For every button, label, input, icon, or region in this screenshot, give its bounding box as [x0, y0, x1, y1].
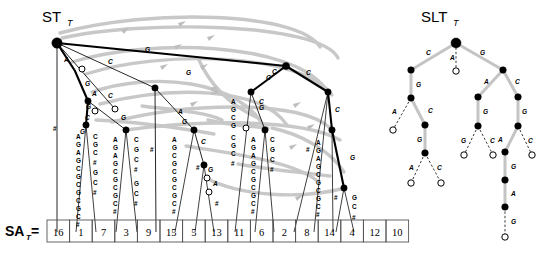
sa-cell-value: 11 — [234, 227, 244, 238]
slt-internal-node[interactable] — [515, 123, 522, 130]
tree-internal-node[interactable] — [201, 162, 207, 168]
tree-internal-node[interactable] — [191, 127, 197, 133]
svg-text:G: G — [93, 169, 98, 176]
sa-cell-value: 6 — [259, 227, 264, 238]
tree-internal-node[interactable] — [341, 185, 347, 191]
svg-text:G: G — [113, 192, 118, 199]
slt-edge-label: A — [391, 108, 397, 115]
tree-internal-node[interactable] — [282, 62, 289, 69]
sa-cell-value: 2 — [282, 227, 287, 238]
svg-text:G: G — [352, 194, 357, 201]
slt-internal-node[interactable] — [475, 94, 482, 101]
sa-equals: = — [31, 223, 39, 239]
svg-text:#: # — [251, 208, 255, 215]
slt-internal-node[interactable] — [500, 67, 507, 74]
svg-text:G: G — [231, 106, 236, 113]
svg-text:C: C — [134, 190, 139, 197]
slt-leaf-node[interactable] — [529, 152, 535, 158]
edge-label: G — [121, 114, 126, 121]
svg-text:C: C — [251, 184, 256, 191]
sa-cell-value: 15 — [166, 227, 177, 238]
suffix-tree-title: ST — [42, 8, 61, 25]
svg-text:G: G — [113, 144, 118, 151]
tree-leaf-node[interactable] — [206, 189, 212, 195]
slt-internal-node[interactable] — [502, 204, 509, 211]
svg-text:G: G — [231, 142, 236, 149]
tree-leaf-node[interactable] — [243, 125, 249, 131]
slt-edge-solid — [411, 98, 425, 125]
slt-internal-node[interactable] — [408, 95, 415, 102]
svg-text:G: G — [316, 179, 321, 186]
leaf-string-col: AG CG CG CG C# — [172, 136, 177, 215]
slt-edge-dashed — [465, 126, 478, 153]
slt-leaf-node[interactable] — [502, 234, 508, 240]
leaf-string: # — [53, 125, 57, 132]
slt-leaf-node[interactable] — [390, 127, 396, 133]
slt-internal-node[interactable] — [475, 123, 482, 130]
edge-label: G — [350, 154, 355, 161]
edge-label: C — [306, 69, 311, 76]
tree-edge-thick — [328, 92, 332, 130]
leaf-string: # — [150, 146, 154, 153]
suffix-tree-figure: A C G G A G C G C G A G C G A C C C G G … — [0, 0, 539, 254]
svg-text:#: # — [172, 208, 176, 215]
svg-text:G: G — [172, 144, 177, 151]
slt-internal-node[interactable] — [422, 150, 429, 157]
slt-internal-node[interactable] — [422, 122, 429, 129]
sa-cell-value: 9 — [146, 227, 151, 238]
slt-internal-node[interactable] — [502, 149, 509, 156]
slt-internal-node[interactable] — [515, 94, 522, 101]
svg-text:G: G — [316, 195, 321, 202]
tree-internal-node[interactable] — [152, 85, 158, 91]
tree-leaf-node[interactable] — [112, 106, 118, 112]
slt-leaf-node[interactable] — [438, 180, 444, 186]
svg-text:A: A — [113, 136, 118, 143]
tree-leaf-node[interactable] — [204, 175, 210, 181]
tree-leaf-edge — [255, 130, 265, 232]
tree-internal-node[interactable] — [262, 127, 268, 133]
slt-edge-label: G — [522, 108, 527, 115]
tree-internal-node[interactable] — [329, 127, 335, 133]
svg-text:G: G — [113, 176, 118, 183]
svg-text:A: A — [316, 139, 321, 146]
leaf-string-col: AG CG CG C# — [231, 98, 236, 167]
svg-text:#: # — [93, 189, 97, 196]
svg-text:#: # — [270, 166, 274, 173]
svg-text:G: G — [76, 173, 81, 180]
svg-text:C: C — [172, 184, 177, 191]
slt-edge-label: G — [461, 137, 466, 144]
edge-label: A — [63, 56, 69, 63]
slt-internal-node[interactable] — [502, 177, 509, 184]
slt-internal-node[interactable] — [408, 67, 415, 74]
slt-edge-solid — [456, 43, 503, 70]
slt-leaf-node[interactable] — [453, 68, 459, 74]
tree-leaf-edge — [235, 92, 251, 232]
slt-edge-label: C — [426, 49, 431, 56]
tree-leaf-node[interactable] — [92, 108, 98, 114]
slt-edge-solid — [478, 70, 503, 97]
svg-text:C: C — [76, 165, 81, 172]
slt-title-sub: T — [453, 18, 460, 28]
slt-leaf-node[interactable] — [461, 152, 467, 158]
svg-text:C: C — [93, 179, 98, 186]
leaf-string: # — [215, 200, 219, 207]
edge-label: C — [335, 106, 340, 113]
svg-text:#: # — [93, 159, 97, 166]
leaf-string-col: GC # — [93, 169, 98, 196]
tree-root-node[interactable] — [52, 38, 62, 48]
leaf-string-col: AG AG CG CG CG C# — [76, 133, 81, 228]
edge-label: G — [85, 80, 90, 87]
leaf-string-col: AG AG CG CG C# — [251, 136, 256, 215]
tree-internal-node[interactable] — [123, 127, 129, 133]
slt-root-node[interactable] — [451, 38, 461, 48]
slt-leaf-node[interactable] — [408, 180, 414, 186]
tree-internal-node[interactable] — [325, 89, 331, 95]
tree-leaf-node[interactable] — [79, 66, 85, 72]
tree-internal-node[interactable] — [248, 89, 254, 95]
svg-text:C: C — [76, 213, 81, 220]
slt-leaf-node[interactable] — [490, 152, 496, 158]
slt-edge-label: A — [483, 78, 489, 85]
svg-text:C: C — [251, 200, 256, 207]
svg-text:C: C — [231, 134, 236, 141]
sa-cell-value: 4 — [349, 227, 355, 238]
